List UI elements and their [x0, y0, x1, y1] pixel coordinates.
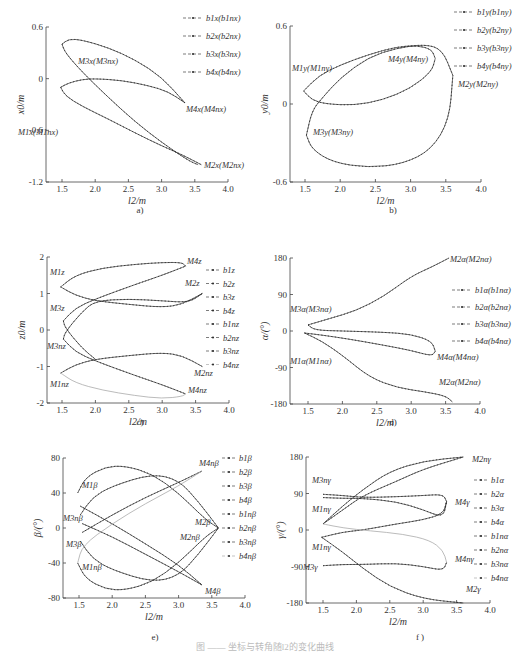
legend-marker-icon: [480, 577, 482, 579]
x-tick-label: 3.5: [206, 600, 218, 610]
legend-item: b4β: [222, 495, 253, 505]
legend-item: b4y(b4ny): [454, 61, 512, 71]
legend-marker-icon: [228, 555, 230, 557]
legend-marker-icon: [192, 17, 194, 19]
point-annotation: M4nβ: [198, 458, 220, 468]
legend-item: b3y(b3ny): [454, 43, 512, 53]
series-markers: [63, 294, 202, 340]
y-tick-label: 0: [56, 523, 61, 533]
series-line: [61, 373, 186, 398]
legend-marker-icon: [212, 269, 214, 271]
legend-item: b3x(b3nx): [183, 49, 241, 59]
y-tick-label: 1: [40, 289, 45, 299]
point-annotation: M2x(M2nx): [203, 160, 244, 170]
y-axis-label: γ/(°): [275, 521, 287, 539]
figure-canvas: 1.52.02.53.03.54.00.60-0.6-1.2l2/mx0/ma)…: [0, 0, 530, 654]
x-tick-label: 3.0: [156, 184, 168, 194]
legend-marker-icon: [192, 35, 194, 37]
legend-item: b3nβ: [222, 537, 257, 547]
point-annotation: M2γ: [465, 584, 481, 594]
legend-label: b2nβ: [239, 523, 257, 533]
y-tick-label: 0: [283, 326, 288, 336]
legend-marker-icon: [480, 563, 482, 565]
legend-label: b1α: [491, 475, 505, 485]
y-tick-label: -1: [37, 362, 45, 372]
y-tick-label: 90: [294, 489, 304, 499]
legend-marker-icon: [212, 296, 214, 298]
series-line: [80, 506, 202, 585]
legend-label: b1nα: [491, 531, 509, 541]
series-markers: [82, 471, 202, 532]
series-markers: [62, 39, 185, 102]
x-tick-label: 2.0: [337, 406, 349, 416]
x-tick-label: 3.0: [406, 406, 418, 416]
legend-item: b2nβ: [222, 523, 257, 533]
legend-label: b2nz: [223, 333, 240, 343]
point-annotation: M1y(M1ny): [291, 63, 332, 73]
legend-item: b2nα: [474, 545, 509, 555]
point-annotation: M4nγ: [454, 554, 475, 564]
series-line: [308, 258, 449, 325]
legend-label: b2nα: [491, 545, 509, 555]
legend-item: b1nz: [206, 319, 240, 329]
subfigure-label: a): [137, 205, 144, 215]
point-annotation: M3nz: [46, 341, 67, 351]
legend-label: b1x(b1nx): [206, 13, 241, 23]
chart-panel-f: 1.52.02.53.03.54.0180900-90-180l2/mγ/(°)…: [275, 452, 509, 642]
x-tick-label: 1.5: [317, 605, 329, 615]
point-annotation: M3β: [65, 539, 82, 549]
legend-item: b4α: [474, 517, 505, 527]
x-tick-label: 1.5: [56, 184, 68, 194]
legend-marker-icon: [461, 323, 463, 325]
series-markers: [308, 325, 435, 351]
legend-item: b2z: [206, 279, 236, 289]
legend-label: b1y(b1ny): [477, 7, 512, 17]
y-tick-label: 2: [40, 252, 45, 262]
x-tick-label: 2.5: [370, 184, 382, 194]
legend-item: b3nα: [474, 559, 509, 569]
point-annotation: M2nz: [193, 368, 214, 378]
x-tick-label: 2.5: [384, 605, 396, 615]
x-tick-label: 3.0: [157, 405, 169, 415]
y-tick-label: 0: [283, 99, 288, 109]
legend-item: b1nα: [474, 531, 509, 541]
y-tick-label: 180: [274, 253, 288, 263]
legend-marker-icon: [228, 471, 230, 473]
series-line: [61, 262, 186, 286]
legend-item: b2x(b2nx): [183, 31, 241, 41]
legend-marker-icon: [463, 47, 465, 49]
legend-label: b4β: [239, 495, 253, 505]
x-tick-label: 4.0: [223, 405, 235, 415]
legend-label: b3α(b3nα): [475, 319, 511, 329]
x-tick-label: 1.5: [299, 184, 311, 194]
point-annotation: M2nγ: [471, 454, 492, 464]
legend-item: b3z: [206, 292, 236, 302]
legend-item: b2α: [474, 489, 505, 499]
legend-label: b3nα: [491, 559, 509, 569]
series-markers: [322, 537, 464, 603]
x-tick-label: 2.5: [371, 406, 383, 416]
legend-item: b1α: [474, 475, 505, 485]
x-tick-label: 2.5: [123, 184, 135, 194]
legend-label: b4α(b4nα): [475, 336, 511, 346]
legend-label: b3β: [239, 481, 253, 491]
y-tick-label: 0: [299, 525, 304, 535]
legend-item: b1nβ: [222, 509, 257, 519]
y-axis-label: α/(°): [259, 321, 271, 340]
legend-item: b4z: [206, 306, 236, 316]
series-line: [308, 325, 435, 351]
point-annotation: M2α(M2nα): [449, 254, 492, 264]
x-tick-label: 2.0: [335, 184, 347, 194]
legend-label: b1nβ: [239, 509, 257, 519]
legend-label: b4x(b4nx): [206, 67, 241, 77]
series-markers: [308, 258, 449, 325]
legend-item: b1β: [222, 453, 253, 463]
legend-label: b3y(b3ny): [477, 43, 512, 53]
point-annotation: M1z: [49, 267, 65, 277]
legend-marker-icon: [228, 499, 230, 501]
point-annotation: M2y(M2ny): [457, 79, 498, 89]
x-tick-label: 3.0: [405, 184, 417, 194]
series-markers: [80, 506, 202, 585]
x-tick-label: 2.0: [90, 405, 102, 415]
legend-marker-icon: [212, 363, 214, 365]
